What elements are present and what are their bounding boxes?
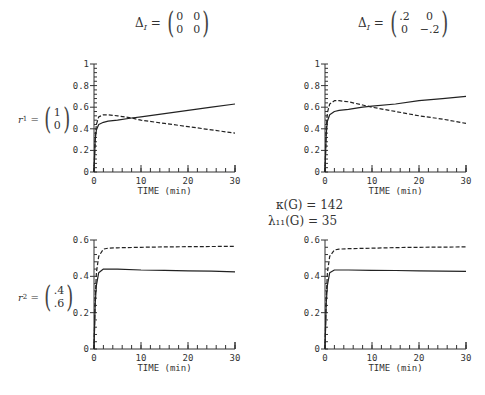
svg-text:0.4: 0.4: [73, 271, 89, 281]
svg-text:20: 20: [183, 353, 194, 363]
svg-text:0.8: 0.8: [73, 81, 89, 91]
svg-text:0: 0: [84, 344, 89, 354]
plot-bottom-right: 00.20.40.60102030TIME (min): [291, 232, 481, 372]
delta-label: ΔI =: [358, 16, 388, 30]
svg-text:20: 20: [414, 176, 425, 186]
svg-text:0.6: 0.6: [304, 235, 320, 245]
delta-matrix: ( 00 00 ): [165, 8, 212, 38]
svg-text:10: 10: [367, 353, 378, 363]
svg-text:TIME (min): TIME (min): [368, 363, 422, 372]
svg-text:0: 0: [315, 344, 320, 354]
svg-text:TIME (min): TIME (min): [368, 186, 422, 195]
svg-text:0.4: 0.4: [304, 271, 320, 281]
svg-text:0: 0: [322, 353, 327, 363]
svg-text:10: 10: [136, 353, 147, 363]
svg-text:10: 10: [367, 176, 378, 186]
svg-text:0.2: 0.2: [73, 308, 89, 318]
svg-text:30: 30: [230, 353, 241, 363]
svg-text:0: 0: [315, 167, 320, 177]
svg-text:0.6: 0.6: [304, 102, 320, 112]
svg-text:0.2: 0.2: [304, 145, 320, 155]
svg-text:0.2: 0.2: [73, 145, 89, 155]
svg-text:0.8: 0.8: [304, 81, 320, 91]
column-header-left: ΔI = ( 00 00 ): [135, 8, 212, 38]
plot-top-left: 00.20.40.60.810102030TIME (min): [60, 55, 250, 195]
plot-bottom-left: 00.20.40.60102030TIME (min): [60, 232, 250, 372]
svg-text:0.4: 0.4: [304, 124, 320, 134]
column-header-right: ΔI = ( .20 0−.2 ): [358, 8, 451, 38]
svg-text:0: 0: [91, 353, 96, 363]
svg-text:20: 20: [414, 353, 425, 363]
delta-label: ΔI =: [135, 16, 165, 30]
svg-text:0: 0: [322, 176, 327, 186]
svg-text:10: 10: [136, 176, 147, 186]
svg-text:TIME (min): TIME (min): [137, 363, 191, 372]
svg-text:30: 30: [230, 176, 241, 186]
svg-text:30: 30: [461, 353, 472, 363]
svg-text:30: 30: [461, 176, 472, 186]
svg-text:20: 20: [183, 176, 194, 186]
delta-matrix: ( .20 0−.2 ): [388, 8, 452, 38]
svg-text:0.6: 0.6: [73, 102, 89, 112]
svg-text:0: 0: [84, 167, 89, 177]
svg-text:0.6: 0.6: [73, 235, 89, 245]
kappa-value: κ(G) = 142: [262, 197, 343, 213]
svg-text:1: 1: [84, 59, 89, 69]
svg-text:0.4: 0.4: [73, 124, 89, 134]
lambda-value: λ₁₁(G) = 35: [262, 213, 343, 229]
svg-text:0: 0: [91, 176, 96, 186]
svg-text:0.2: 0.2: [304, 308, 320, 318]
svg-text:1: 1: [315, 59, 320, 69]
center-note: κ(G) = 142 λ₁₁(G) = 35: [262, 197, 343, 229]
plot-top-right: 00.20.40.60.810102030TIME (min): [291, 55, 481, 195]
svg-text:TIME (min): TIME (min): [137, 186, 191, 195]
